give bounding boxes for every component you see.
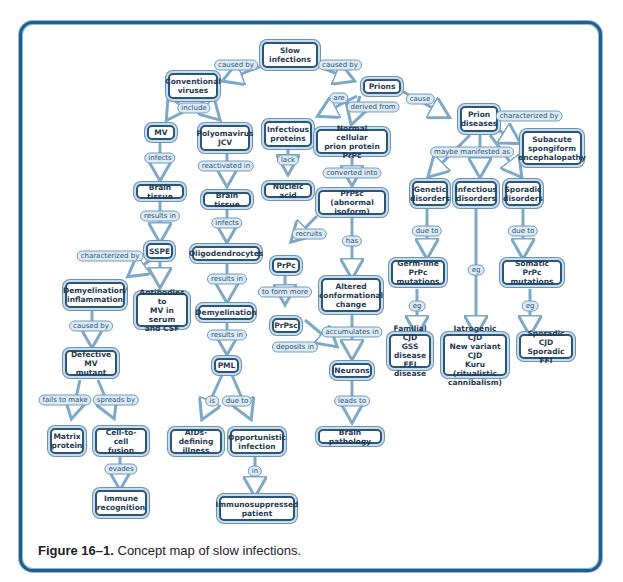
node-mv: MV [147,125,175,140]
node-immunosuppressed-patient: Immunosuppressed patient [219,496,295,521]
link-evades: evades [104,464,137,475]
node-pml: PML [214,358,239,373]
node-prpsc-abnormal: PrPsc (abnormal isoform) [318,190,386,215]
node-brain-tissue-mv: Brain tissue [136,184,184,199]
node-immune-recognition: Immune recognition [95,490,147,516]
link-spreads-by: spreads by [93,395,139,406]
link-are: are [329,93,348,104]
link-is: is [205,396,219,407]
node-familial-cjd: Familial CJD GSS disease FFI disease [389,334,431,368]
link-infects-olig: infects [211,218,242,229]
link-cause: cause [406,94,435,105]
node-oligodendrocytes: Oligodendrocytes [192,246,260,261]
node-normal-prpc: Normal cellular prion protein PrPc [316,129,388,154]
link-leads-to: leads to [334,396,370,407]
link-reactivated-in: reactivated in [198,161,254,172]
node-sspe: SSPE [146,243,173,259]
link-fails-to-make: fails to make [39,395,92,406]
link-caused-by-right: caused by [318,60,362,71]
link-results-in-sspe: results in [140,211,180,222]
node-sporadic-disorders: Sporadic disorders [505,181,541,206]
link-to-form-more: to form more [258,287,312,298]
figure-caption: Figure 16–1. Concept map of slow infecti… [38,543,301,558]
node-genetic-disorders: Genetic disorders [412,181,448,206]
link-caused-by-defective: caused by [69,321,113,332]
link-eg-germline: eg [409,301,426,312]
link-in: in [248,466,262,477]
node-prion-diseases: Prion diseases [460,106,498,132]
node-opportunistic-infection: Opportunistic infection [230,429,284,454]
link-due-to-genetic: due to [412,226,442,237]
node-germline-mutations: Germ-line PrPc mutations [391,260,445,285]
node-iatrogenic-cjd: Iatrogenic CJD New variant CJD Kuru (rit… [443,334,507,376]
node-sporadic-cjd: Sporadic CJD Sporadic FFI [519,334,573,359]
node-infectious-disorders: Infectious disorders [455,181,497,206]
node-defective-mv-mutant: Defective MV mutant [65,350,117,376]
link-eg-infectious: eg [468,265,485,276]
node-prpc: PrPc [272,258,300,273]
link-recruits: recruits [292,229,327,240]
link-has: has [342,236,362,247]
node-prpsc: PrPsc [272,318,300,333]
link-deposits-in: deposits in [272,342,318,353]
figure-caption-text: Concept map of slow infections. [114,543,301,558]
node-matrix-protein: Matrix protein [50,428,84,454]
link-characterized-by-prion: characterized by [496,111,563,122]
figure-caption-label: Figure 16–1. [38,543,114,558]
node-polyomavirus-jcv: Polyomavirus JCV [200,125,250,151]
node-cell-to-cell-fusion: Cell-to-cell fusion [95,428,147,454]
node-infectious-proteins: Infectious proteins [264,121,312,147]
node-slow-infections: Slow infections [262,42,318,68]
node-prions: Prions [363,79,401,94]
node-altered-conformational: Altered conformational change [321,278,381,312]
link-converted-into: converted into [322,168,381,179]
link-include: include [177,103,210,114]
link-caused-by-left: caused by [214,60,258,71]
node-demyelination: Demyelination [198,305,254,320]
link-eg-somatic: eg [522,301,539,312]
link-due-to-pml: due to [222,396,252,407]
node-subacute-spongiform: Subacute spongiform encephalopathy [522,131,582,165]
node-antibodies: Antibodies to MV in serum and CSF [136,293,188,327]
link-due-to-sporadic: due to [508,226,538,237]
node-neurons: Neurons [332,363,372,378]
node-somatic-mutations: Somatic PrPc mutations [502,260,562,285]
link-results-in-pml: results in [207,330,247,341]
node-conventional-viruses: Conventional viruses [168,73,218,99]
link-characterized-by-sspe: characterized by [77,251,144,262]
link-accumulates-in: accumulates in [321,327,382,338]
link-derived-from: derived from [347,102,400,113]
node-demyelination-inflammation: Demyelination/ inflammation [65,282,125,308]
node-brain-pathology: Brain pathology [318,429,382,444]
link-results-in-demy: results in [207,274,247,285]
link-lack: lack [277,155,299,166]
link-maybe-manifested-as: maybe manifested as [430,147,514,158]
node-aids-defining-illness: AIDs-defining illness [170,429,222,454]
node-brain-tissue-jcv: Brain tissue [203,192,251,207]
link-infects-mv: infects [144,153,175,164]
node-nucleic-acid: Nucleic acid [264,183,312,198]
